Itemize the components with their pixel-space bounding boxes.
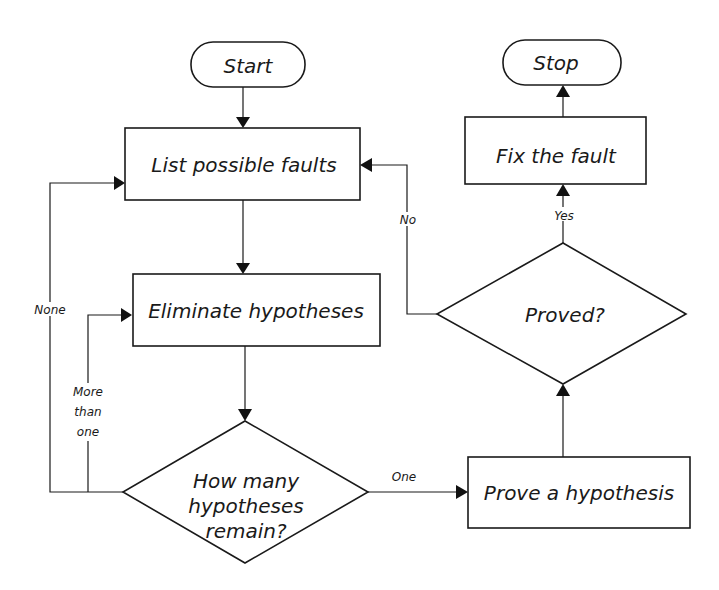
arrow-head-right <box>456 485 468 499</box>
node-proved-label: Proved? <box>525 303 605 327</box>
arrow-head-down <box>236 117 250 128</box>
node-eliminate: Eliminate hypotheses <box>133 274 380 346</box>
node-eliminate-label: Eliminate hypotheses <box>148 299 364 323</box>
node-stop: Stop <box>503 40 621 85</box>
edge-label-one: One <box>392 470 416 484</box>
arrow-head-right <box>114 176 125 190</box>
edge-label-more-than-one-line3: one <box>77 425 99 439</box>
arrow-head-down <box>236 263 250 274</box>
node-list-faults-label: List possible faults <box>151 153 336 177</box>
arrow-head-up <box>556 85 570 97</box>
edge-label-yes: Yes <box>554 209 574 223</box>
node-list-faults: List possible faults <box>125 128 360 200</box>
edge-label-more-than-one-line1: More <box>73 385 103 399</box>
flowchart-canvas: Start List possible faults Eliminate hyp… <box>0 0 719 590</box>
node-how-many-label-line3: remain? <box>205 519 286 543</box>
edge-none-loop <box>50 183 123 492</box>
arrow-head-down <box>238 409 252 421</box>
edge-label-no: No <box>400 213 416 227</box>
node-how-many-decision: How many hypotheses remain? <box>123 421 368 563</box>
node-fix: Fix the fault <box>465 117 646 184</box>
edge-label-none: None <box>34 303 65 317</box>
node-how-many-label-line1: How many <box>193 469 300 493</box>
edge-label-more-than-one-line2: than <box>74 405 101 419</box>
node-start-label: Start <box>224 54 274 78</box>
node-prove-label: Prove a hypothesis <box>484 481 674 505</box>
node-proved-decision: Proved? <box>437 243 686 384</box>
arrow-head-right <box>121 308 132 322</box>
arrow-head-up <box>556 184 570 196</box>
node-prove: Prove a hypothesis <box>468 457 690 528</box>
node-start: Start <box>191 42 305 87</box>
node-fix-label: Fix the fault <box>496 144 617 168</box>
node-stop-label: Stop <box>533 51 578 75</box>
arrow-head-up <box>556 384 570 396</box>
arrow-head-left <box>360 158 372 172</box>
node-how-many-label-line2: hypotheses <box>188 494 303 518</box>
